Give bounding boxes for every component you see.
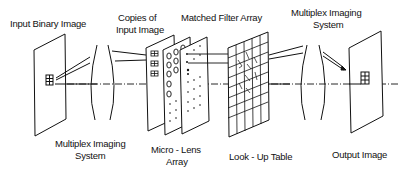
output-image-plane — [349, 31, 383, 133]
input-image-plane — [34, 34, 97, 136]
label-multiplex-imaging-bottom-line1: Multiplex Imaging — [55, 138, 126, 150]
label-matched-filter-array: Matched Filter Array — [181, 12, 262, 24]
optical-system-diagram: Input Binary Image Copies of Input Image… — [0, 0, 402, 174]
multiplex-lens-2 — [301, 45, 325, 120]
label-input-binary-image: Input Binary Image — [10, 18, 86, 30]
label-micro-lens-array-line1: Micro - Lens — [151, 144, 201, 156]
label-micro-lens-array-line2: Array — [166, 156, 188, 168]
label-copies-of-input-image-line2: Input Image — [116, 24, 164, 36]
label-multiplex-imaging-top-line2: System — [313, 19, 343, 31]
multiplex-lens-1 — [91, 45, 114, 120]
label-look-up-table: Look - Up Table — [229, 151, 292, 163]
label-output-image: Output Image — [332, 149, 387, 161]
label-copies-of-input-image-line1: Copies of — [118, 12, 156, 24]
label-multiplex-imaging-top-line1: Multiplex Imaging — [291, 7, 362, 19]
label-multiplex-imaging-bottom-line2: System — [75, 150, 105, 162]
look-up-table-plane — [228, 32, 269, 137]
matched-filter-array-plane — [180, 37, 209, 134]
